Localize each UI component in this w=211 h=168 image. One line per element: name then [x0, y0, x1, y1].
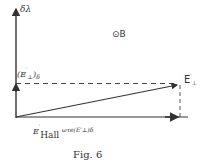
vector-label: E′⊥ [184, 72, 197, 86]
magnetic-field-label: ⊙B [112, 29, 126, 39]
axis-label: δλ [20, 4, 31, 14]
diagram-canvas [0, 0, 211, 168]
vertical-projection-label: (E′⊥)δ [17, 66, 40, 80]
horizontal-projection-label: E′Hall ωτe(E′⊥)δ [33, 123, 93, 140]
figure-caption: Fig. 6 [73, 149, 102, 160]
e-perp-vector [16, 85, 177, 117]
